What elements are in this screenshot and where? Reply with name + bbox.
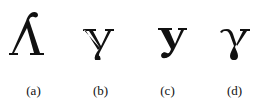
panel-label-d: (d)	[201, 83, 268, 98]
lambda-glyph-icon	[0, 8, 67, 60]
panel-c: (c)	[134, 0, 201, 109]
panel-d: (d)	[201, 0, 268, 109]
panel-b: (b)	[67, 0, 134, 109]
panel-a: (a)	[0, 0, 67, 109]
y-looped-glyph-icon	[67, 8, 134, 60]
panel-label-c: (c)	[134, 83, 201, 98]
panel-label-b: (b)	[67, 83, 134, 98]
y-glyph-icon	[134, 8, 201, 60]
panel-label-a: (a)	[0, 83, 67, 98]
gamma-glyph-icon	[201, 8, 268, 60]
